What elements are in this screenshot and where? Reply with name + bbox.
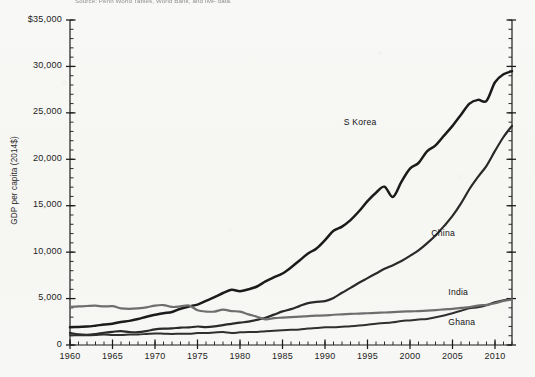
x-tick-label: 1980 [222, 351, 258, 361]
x-tick-label: 1960 [52, 351, 88, 361]
x-tick-label: 2005 [435, 351, 471, 361]
chart-series [70, 71, 512, 335]
series-label-ghana: Ghana [448, 317, 475, 327]
x-tick-label: 2000 [392, 351, 428, 361]
x-tick-label: 1970 [137, 351, 173, 361]
chart-axes [66, 20, 516, 349]
x-tick-label: 1985 [265, 351, 301, 361]
series-label-s-korea: S Korea [344, 117, 377, 127]
x-tick-label: 1995 [350, 351, 386, 361]
x-tick-label: 1990 [307, 351, 343, 361]
series-label-india: India [448, 287, 468, 297]
series-label-china: China [431, 228, 455, 238]
x-tick-label: 2010 [477, 351, 513, 361]
series-line-s-korea [70, 71, 512, 327]
x-tick-label: 1965 [95, 351, 131, 361]
x-tick-label: 1975 [180, 351, 216, 361]
